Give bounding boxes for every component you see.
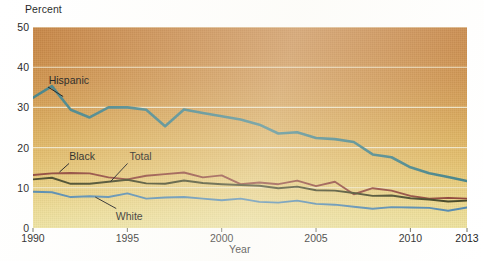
x-tick-2000: 2000 bbox=[210, 232, 233, 244]
x-tick-2013: 2013 bbox=[455, 232, 478, 244]
y-tick-20: 20 bbox=[1, 142, 29, 154]
plot-area bbox=[33, 27, 467, 228]
y-tick-30: 30 bbox=[1, 101, 29, 113]
series-line-total bbox=[33, 178, 467, 202]
y-tick-40: 40 bbox=[1, 61, 29, 73]
series-canvas bbox=[33, 27, 467, 228]
y-axis-title: Percent bbox=[25, 3, 62, 15]
x-tick-2010: 2010 bbox=[399, 232, 422, 244]
x-tick-2005: 2005 bbox=[304, 232, 327, 244]
series-line-hispanic bbox=[33, 86, 467, 181]
x-axis-title: Year bbox=[229, 243, 251, 255]
y-tick-50: 50 bbox=[1, 21, 29, 33]
series-line-white bbox=[33, 192, 467, 211]
callout-label-total: Total bbox=[129, 150, 151, 162]
x-tick-1990: 1990 bbox=[21, 232, 44, 244]
callout-label-black: Black bbox=[69, 150, 95, 162]
callout-label-hispanic: Hispanic bbox=[49, 74, 89, 86]
x-tick-1995: 1995 bbox=[116, 232, 139, 244]
y-tick-10: 10 bbox=[1, 182, 29, 194]
y-axis-tick-labels: 01020304050 bbox=[0, 0, 29, 261]
line-chart: Percent Year 01020304050 199019952000200… bbox=[0, 0, 484, 261]
callout-label-white: White bbox=[116, 210, 143, 222]
